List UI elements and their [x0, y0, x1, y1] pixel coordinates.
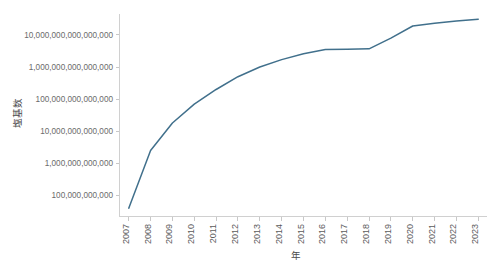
x-axis-tick-label: 2019	[383, 224, 393, 244]
y-axis-tick-label: 1,000,000,000,000,000	[29, 63, 114, 72]
x-axis-tick-label: 2022	[448, 224, 458, 244]
x-axis-tick-label: 2016	[317, 224, 327, 244]
y-axis-tick-label: 10,000,000,000,000,000	[24, 31, 113, 40]
x-axis-tick-label: 2017	[339, 224, 349, 244]
y-axis-tick-label: 10,000,000,000,000	[40, 127, 113, 136]
x-axis-tick-group: 2007200820092010201120122013201420152016…	[121, 217, 481, 245]
x-axis-tick-label: 2020	[405, 224, 415, 244]
x-axis-tick-label: 2023	[470, 224, 480, 244]
data-series-line	[129, 19, 479, 208]
x-axis-title: 年	[291, 250, 301, 261]
x-axis-tick-label: 2010	[186, 224, 196, 244]
x-axis-tick-label: 2009	[164, 224, 174, 244]
x-axis-tick-label: 2011	[208, 224, 218, 243]
x-axis-tick-label: 2007	[121, 224, 131, 244]
line-chart: 100,000,000,0001,000,000,000,00010,000,0…	[0, 0, 500, 274]
x-axis-tick-label: 2015	[296, 224, 306, 244]
chart-container: 100,000,000,0001,000,000,000,00010,000,0…	[0, 0, 500, 274]
x-axis-tick-label: 2008	[143, 224, 153, 244]
x-axis-tick-label: 2012	[230, 224, 240, 244]
x-axis-tick-label: 2021	[427, 224, 437, 244]
y-axis-tick-label: 100,000,000,000	[52, 191, 114, 200]
y-axis-title: 塩基数	[12, 98, 23, 128]
x-axis-tick-label: 2013	[252, 224, 262, 244]
y-axis-tick-group: 100,000,000,0001,000,000,000,00010,000,0…	[24, 31, 119, 200]
y-axis-tick-label: 1,000,000,000,000	[45, 159, 114, 168]
y-axis-tick-label: 100,000,000,000,000	[36, 95, 114, 104]
x-axis-tick-label: 2018	[361, 224, 371, 244]
x-axis-tick-label: 2014	[274, 224, 284, 244]
